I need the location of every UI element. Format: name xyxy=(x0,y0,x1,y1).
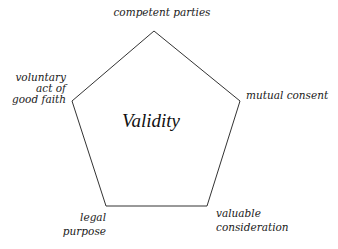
vertex-label-upper-left: voluntary act of good faith xyxy=(4,72,66,105)
vertex-label-upper-right: mutual consent xyxy=(246,90,328,101)
vertex-label-lower-right: valuable consideration xyxy=(216,208,289,233)
validity-pentagon-diagram: Validity competent parties mutual consen… xyxy=(0,0,338,249)
center-label: Validity xyxy=(122,110,180,132)
vertex-label-top: competent parties xyxy=(110,7,214,18)
vertex-label-lower-left: legal purpose xyxy=(50,212,106,237)
